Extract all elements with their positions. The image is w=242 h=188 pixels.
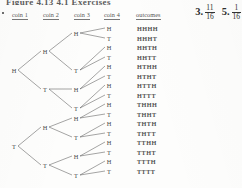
outcome-HTHH: HTHH: [137, 63, 157, 70]
tree-node-coin-3-t-1: T: [74, 67, 78, 74]
outcome-THHT: THHT: [137, 111, 157, 118]
tree-node-coin-4-h-10: H: [107, 120, 112, 127]
outcome-TTTH: TTTH: [137, 158, 156, 165]
tree-node-coin-4-h-4: H: [107, 63, 112, 70]
outcome-THTT: THTT: [137, 130, 156, 137]
outcome-THHH: THHH: [137, 101, 157, 108]
tree-edge: [80, 76, 105, 89]
outcome-TTHH: TTHH: [137, 139, 157, 146]
tree-edge: [49, 127, 72, 137]
outcome-HHTT: HHTT: [137, 54, 157, 61]
outcome-HTTH: HTTH: [137, 82, 157, 89]
tree-edge: [49, 33, 72, 51]
tree-edge: [49, 89, 72, 108]
tree-edge: [18, 51, 41, 70]
tree-node-coin-3-h-2: H: [74, 86, 79, 93]
tree-node-coin-4-h-8: H: [107, 101, 112, 108]
tree-edge: [18, 127, 41, 146]
tree-node-coin-3-h-0: H: [74, 30, 79, 37]
probability-tree-edges: [0, 0, 242, 188]
tree-node-coin-3-t-5: T: [74, 134, 78, 141]
tree-node-coin-2-h-0: H: [43, 48, 48, 55]
tree-node-coin-4-t-5: T: [107, 73, 111, 80]
outcome-HHHH: HHHH: [137, 25, 158, 32]
tree-edge: [80, 47, 105, 70]
tree-edge: [80, 33, 105, 38]
outcome-HTHT: HTHT: [137, 73, 157, 80]
tree-node-coin-3-t-3: T: [74, 105, 78, 112]
tree-node-coin-4-t-15: T: [107, 168, 111, 175]
tree-node-coin-2-t-1: T: [43, 86, 47, 93]
tree-node-coin-3-t-7: T: [74, 172, 78, 179]
tree-node-coin-4-t-1: T: [107, 35, 111, 42]
tree-node-coin-4-t-9: T: [107, 111, 111, 118]
tree-node-coin-4-h-14: H: [107, 158, 112, 165]
tree-node-coin-1-h-0: H: [12, 67, 17, 74]
tree-edge: [80, 85, 105, 108]
outcome-TTHT: TTHT: [137, 149, 156, 156]
tree-node-coin-4-t-3: T: [107, 54, 111, 61]
tree-node-coin-4-t-11: T: [107, 130, 111, 137]
tree-edge: [18, 146, 41, 165]
outcome-HHTH: HHTH: [137, 44, 157, 51]
tree-edge: [49, 165, 72, 175]
tree-node-coin-4-h-12: H: [107, 139, 112, 146]
tree-node-coin-3-h-4: H: [74, 115, 79, 122]
tree-edge: [80, 66, 105, 89]
tree-edge: [18, 70, 41, 89]
outcome-HTTT: HTTT: [137, 92, 156, 99]
tree-node-coin-4-h-6: H: [107, 82, 112, 89]
tree-node-coin-4-t-13: T: [107, 149, 111, 156]
outcome-HHHT: HHHT: [137, 35, 157, 42]
tree-node-coin-1-t-1: T: [12, 143, 16, 150]
tree-node-coin-2-t-3: T: [43, 162, 47, 169]
tree-node-coin-4-h-2: H: [107, 44, 112, 51]
tree-node-coin-4-h-0: H: [107, 25, 112, 32]
tree-node-coin-4-t-7: T: [107, 92, 111, 99]
tree-edge: [49, 51, 72, 70]
tree-node-coin-3-h-6: H: [74, 153, 79, 160]
tree-edge: [49, 156, 72, 165]
outcome-THTH: THTH: [137, 120, 157, 127]
tree-edge: [49, 118, 72, 127]
textbook-page-fragment: Figure 4.13 4.1 Exercises coin 1coin 2co…: [0, 0, 242, 188]
tree-node-coin-2-h-2: H: [43, 124, 48, 131]
tree-edge: [80, 57, 105, 70]
tree-edge: [80, 28, 105, 33]
outcome-TTTT: TTTT: [137, 168, 155, 175]
